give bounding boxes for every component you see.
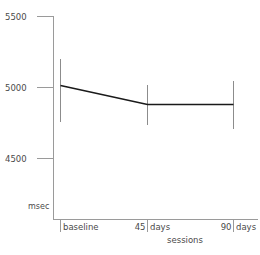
- x-tick-label-45-days-suffix: days: [150, 222, 171, 232]
- y-tick-label-4500: 4500: [5, 154, 27, 164]
- line-chart-canvas: 5500 5000 4500 msec baseline 45 days 90 …: [0, 0, 260, 255]
- x-tick-label-baseline: baseline: [63, 222, 99, 232]
- y-axis-unit-label: msec: [28, 202, 49, 211]
- y-tick-label-5500: 5500: [5, 12, 27, 22]
- x-axis-title: sessions: [167, 235, 203, 245]
- x-tick-label-90-days-suffix: days: [236, 222, 257, 232]
- x-tick-label-90: 90: [221, 222, 232, 232]
- y-tick-label-5000: 5000: [5, 83, 27, 93]
- x-tick-label-45: 45: [135, 222, 146, 232]
- chart-figure: 5500 5000 4500 msec baseline 45 days 90 …: [0, 0, 260, 255]
